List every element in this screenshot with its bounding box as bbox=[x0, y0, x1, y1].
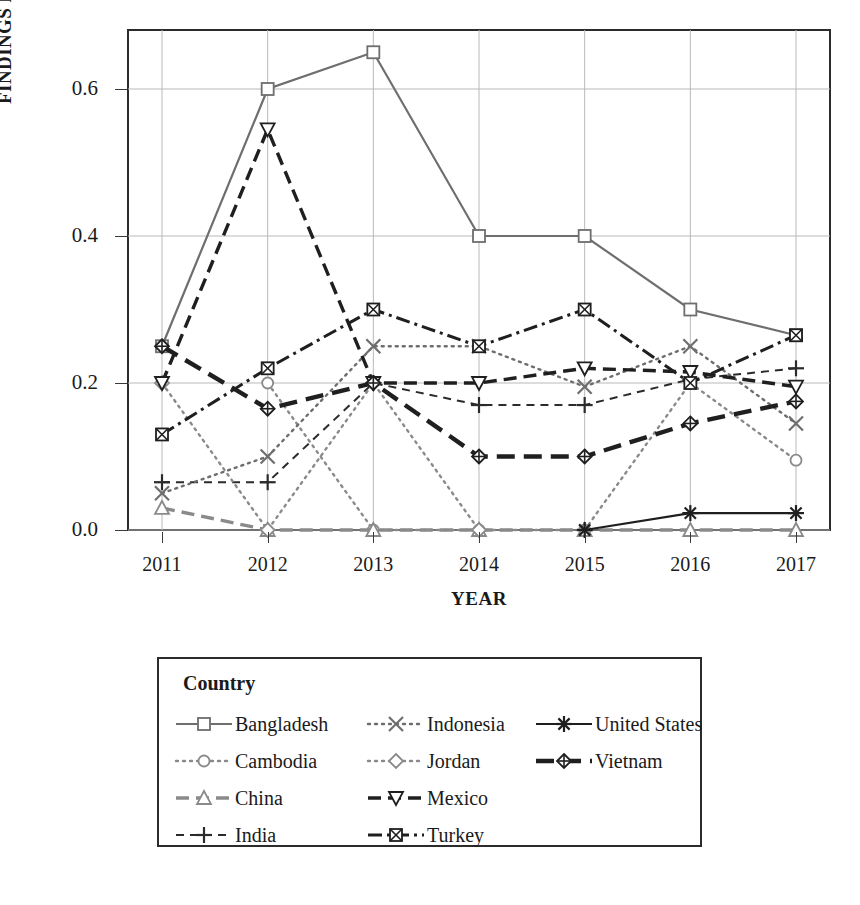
x-tick-label: 2014 bbox=[439, 554, 519, 574]
open-circle-icon bbox=[173, 748, 235, 774]
crossed-square-icon bbox=[365, 822, 427, 848]
legend-item-china[interactable]: China bbox=[173, 779, 365, 816]
y-tick-mark bbox=[115, 236, 127, 237]
legend-item-label: China bbox=[235, 788, 283, 808]
y-tick-mark bbox=[115, 89, 127, 90]
open-square-icon bbox=[173, 711, 235, 737]
legend-item-cambodia[interactable]: Cambodia bbox=[173, 742, 365, 779]
x-tick-label: 2012 bbox=[228, 554, 308, 574]
x-tick-label: 2013 bbox=[333, 554, 413, 574]
diamond-plus-icon bbox=[533, 748, 595, 774]
legend: Country BangladeshCambodiaChinaIndiaIndo… bbox=[157, 657, 702, 847]
plot-area: FINDINGS PER AUDIT YEAR 0.00.20.40.62011… bbox=[0, 0, 860, 640]
legend-item-turkey[interactable]: Turkey bbox=[365, 816, 533, 853]
legend-column: United StatesVietnam bbox=[533, 705, 693, 853]
legend-item-vietnam[interactable]: Vietnam bbox=[533, 742, 693, 779]
legend-item-label: United States bbox=[595, 714, 702, 734]
legend-item-label: Mexico bbox=[427, 788, 488, 808]
legend-item-label: Bangladesh bbox=[235, 714, 328, 734]
legend-item-label: Vietnam bbox=[595, 751, 663, 771]
x-tick-mark bbox=[268, 532, 269, 543]
open-diamond-icon bbox=[365, 748, 427, 774]
legend-item-india[interactable]: India bbox=[173, 816, 365, 853]
x-tick-mark bbox=[585, 532, 586, 543]
legend-item-jordan[interactable]: Jordan bbox=[365, 742, 533, 779]
x-tick-label: 2015 bbox=[545, 554, 625, 574]
x-tick-mark bbox=[373, 532, 374, 543]
legend-item-united-states[interactable]: United States bbox=[533, 705, 693, 742]
legend-column: IndonesiaJordanMexicoTurkey bbox=[365, 705, 533, 853]
x-tick-label: 2011 bbox=[122, 554, 202, 574]
x-axis-title: YEAR bbox=[128, 588, 830, 610]
legend-item-bangladesh[interactable]: Bangladesh bbox=[173, 705, 365, 742]
y-tick-label: 0.4 bbox=[28, 225, 98, 246]
legend-item-label: Cambodia bbox=[235, 751, 317, 771]
chart-page: FINDINGS PER AUDIT YEAR 0.00.20.40.62011… bbox=[0, 0, 860, 905]
legend-item-label: Jordan bbox=[427, 751, 480, 771]
y-tick-label: 0.0 bbox=[28, 519, 98, 540]
open-triangle-up-icon bbox=[173, 785, 235, 811]
y-tick-mark bbox=[115, 530, 127, 531]
legend-column: BangladeshCambodiaChinaIndia bbox=[173, 705, 365, 853]
asterisk-icon bbox=[533, 711, 595, 737]
legend-item-mexico[interactable]: Mexico bbox=[365, 779, 533, 816]
x-tick-mark bbox=[479, 532, 480, 543]
line-chart-canvas bbox=[0, 0, 860, 640]
plus-icon bbox=[173, 822, 235, 848]
legend-item-indonesia[interactable]: Indonesia bbox=[365, 705, 533, 742]
x-cross-icon bbox=[365, 711, 427, 737]
x-tick-label: 2016 bbox=[650, 554, 730, 574]
x-tick-label: 2017 bbox=[756, 554, 836, 574]
legend-item-label: Indonesia bbox=[427, 714, 505, 734]
legend-title: Country bbox=[183, 672, 255, 695]
legend-item-label: India bbox=[235, 825, 276, 845]
legend-columns: BangladeshCambodiaChinaIndiaIndonesiaJor… bbox=[173, 705, 693, 853]
x-tick-mark bbox=[162, 532, 163, 543]
legend-item-label: Turkey bbox=[427, 825, 484, 845]
y-tick-label: 0.2 bbox=[28, 372, 98, 393]
y-tick-label: 0.6 bbox=[28, 78, 98, 99]
x-tick-mark bbox=[796, 532, 797, 543]
x-tick-mark bbox=[690, 532, 691, 543]
y-tick-mark bbox=[115, 383, 127, 384]
open-triangle-down-icon bbox=[365, 785, 427, 811]
